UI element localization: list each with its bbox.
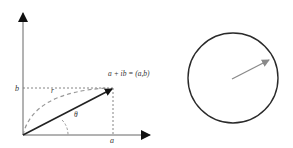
- y-tick-label-b: b: [15, 84, 19, 93]
- x-tick-label-a: a: [110, 136, 114, 145]
- circle-vector: [232, 60, 269, 79]
- angle-label-theta: θ: [74, 110, 78, 119]
- angle-arc: [62, 120, 68, 135]
- complex-plane-diagram: a + ib = (a,b) b a r θ: [0, 0, 293, 148]
- point-label: a + ib = (a,b): [108, 69, 150, 78]
- radius-label-r: r: [51, 86, 54, 95]
- complex-plane: a + ib = (a,b) b a r θ: [15, 13, 150, 145]
- circle-panel: [188, 33, 278, 123]
